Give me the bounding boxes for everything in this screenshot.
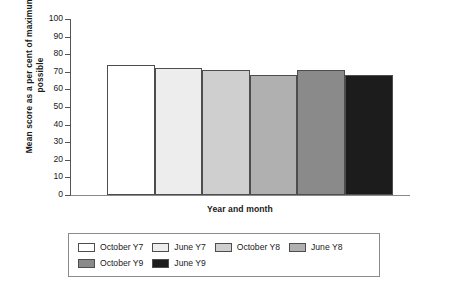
legend-label: June Y7 (174, 242, 205, 252)
y-tick-label: 80 (23, 48, 63, 58)
legend-item-list: October Y7June Y7October Y8June Y8Octobe… (78, 239, 379, 271)
bar-october-y8 (202, 70, 250, 195)
bar-series (107, 19, 393, 195)
legend-item[interactable]: October Y7 (78, 239, 143, 255)
y-tick-mark (65, 125, 71, 126)
y-tick: 30 (70, 142, 71, 143)
y-tick-label: 50 (23, 101, 63, 111)
y-tick-label: 0 (23, 189, 63, 199)
y-tick-label: 100 (23, 13, 63, 23)
y-tick-mark (65, 89, 71, 90)
bar-june-y7 (155, 68, 203, 195)
y-tick-label: 10 (23, 171, 63, 181)
legend-swatch-icon (152, 259, 169, 268)
plot-area: 1009080706050403020100 (70, 19, 410, 196)
legend-label: June Y8 (311, 242, 342, 252)
y-tick: 50 (70, 107, 71, 108)
bar-chart-figure: Mean score as a per cent of maximum poss… (0, 0, 449, 285)
y-tick: 90 (70, 37, 71, 38)
y-tick-mark (65, 177, 71, 178)
legend-label: October Y7 (100, 242, 143, 252)
y-tick: 0 (70, 195, 71, 196)
y-tick-label: 40 (23, 119, 63, 129)
legend-item[interactable]: June Y7 (152, 239, 205, 255)
legend-label: October Y9 (100, 258, 143, 268)
x-axis-title: Year and month (70, 204, 410, 214)
legend-swatch-icon (152, 243, 169, 252)
y-tick-mark (65, 142, 71, 143)
y-tick-mark (65, 72, 71, 73)
y-tick-mark (65, 54, 71, 55)
legend-label: October Y8 (237, 242, 280, 252)
y-tick: 40 (70, 125, 71, 126)
y-tick: 100 (70, 19, 71, 20)
y-tick: 10 (70, 177, 71, 178)
legend-label: June Y9 (174, 258, 205, 268)
y-tick: 80 (70, 54, 71, 55)
legend-item[interactable]: June Y8 (289, 239, 342, 255)
y-tick-mark (65, 195, 71, 196)
legend-item[interactable]: June Y9 (152, 255, 205, 271)
legend-item[interactable]: October Y9 (78, 255, 143, 271)
y-tick-mark (65, 160, 71, 161)
y-tick-label: 60 (23, 83, 63, 93)
bar-october-y9 (297, 70, 345, 195)
bar-june-y9 (345, 75, 393, 195)
bar-october-y7 (107, 65, 155, 195)
legend-swatch-icon (78, 259, 95, 268)
legend-swatch-icon (289, 243, 306, 252)
chart-legend: October Y7June Y7October Y8June Y8Octobe… (68, 233, 380, 277)
y-tick: 20 (70, 160, 71, 161)
y-tick-mark (65, 107, 71, 108)
y-tick-label: 90 (23, 31, 63, 41)
legend-swatch-icon (215, 243, 232, 252)
y-tick-label: 70 (23, 66, 63, 76)
y-tick-mark (65, 37, 71, 38)
y-tick-label: 20 (23, 154, 63, 164)
bar-june-y8 (250, 75, 298, 195)
y-tick: 70 (70, 72, 71, 73)
legend-item[interactable]: October Y8 (215, 239, 280, 255)
y-tick-mark (65, 19, 71, 20)
x-axis-line (70, 195, 410, 196)
legend-swatch-icon (78, 243, 95, 252)
y-tick-label: 30 (23, 136, 63, 146)
y-tick: 60 (70, 89, 71, 90)
